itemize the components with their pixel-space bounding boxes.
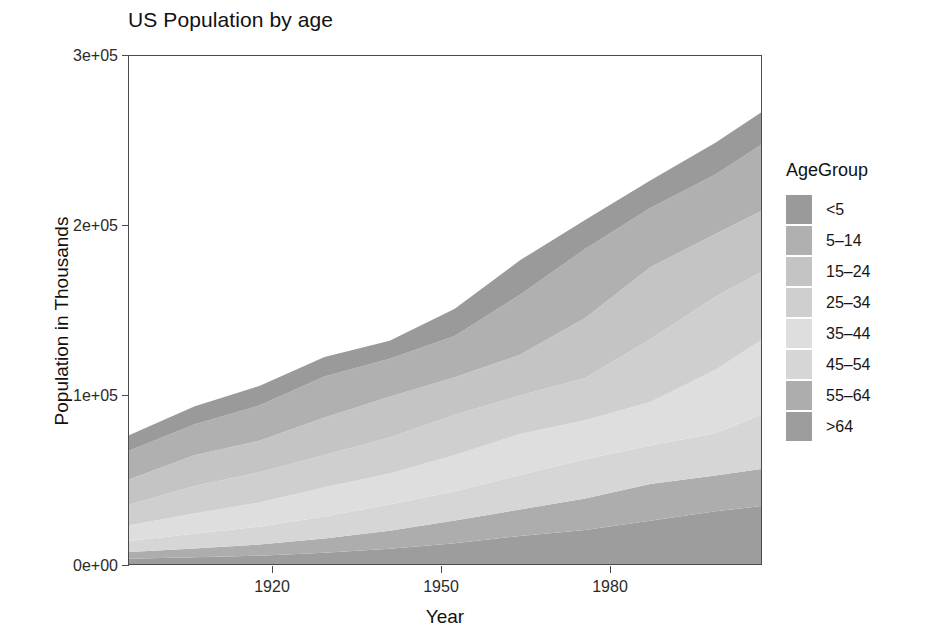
- legend-item[interactable]: 45–54: [786, 349, 926, 380]
- y-tick-label-1: 1e+05: [52, 387, 118, 405]
- legend-item-label: 25–34: [826, 294, 871, 312]
- legend-swatch-icon: [786, 412, 812, 441]
- legend-swatch-icon: [786, 195, 812, 224]
- legend-item[interactable]: 25–34: [786, 287, 926, 318]
- legend-item-label: 15–24: [826, 263, 871, 281]
- y-axis-title: Population in Thousands: [51, 141, 73, 501]
- x-axis-title: Year: [128, 606, 762, 628]
- stacked-area-svg: [129, 56, 761, 564]
- y-tick-mark-0: [122, 565, 129, 566]
- legend-item-label: 55–64: [826, 387, 871, 405]
- x-tick-label-0: 1920: [232, 578, 312, 596]
- legend-item-label: >64: [826, 418, 853, 436]
- chart-figure: US Population by age Population in Thous…: [0, 0, 928, 642]
- legend-swatch-icon: [786, 319, 812, 348]
- legend-items: <55–1415–2425–3435–4445–5455–64>64: [786, 194, 926, 442]
- legend-item[interactable]: >64: [786, 411, 926, 442]
- x-tick-mark-1: [441, 566, 442, 573]
- legend-item-label: 35–44: [826, 325, 871, 343]
- area-series-group: [129, 113, 761, 564]
- x-tick-label-2: 1980: [570, 578, 650, 596]
- legend-swatch-icon: [786, 226, 812, 255]
- x-tick-mark-2: [610, 566, 611, 573]
- legend-item[interactable]: 5–14: [786, 225, 926, 256]
- legend-item[interactable]: <5: [786, 194, 926, 225]
- legend-item-label: 5–14: [826, 232, 862, 250]
- legend-item[interactable]: 35–44: [786, 318, 926, 349]
- legend-swatch-icon: [786, 350, 812, 379]
- legend: AgeGroup <55–1415–2425–3435–4445–5455–64…: [786, 160, 926, 442]
- plot-area: [128, 55, 762, 565]
- legend-swatch-icon: [786, 381, 812, 410]
- y-tick-label-3: 3e+05: [52, 47, 118, 65]
- legend-item[interactable]: 55–64: [786, 380, 926, 411]
- y-tick-label-0: 0e+00: [52, 557, 118, 575]
- legend-item[interactable]: 15–24: [786, 256, 926, 287]
- page-title: US Population by age: [128, 8, 333, 32]
- x-tick-mark-0: [272, 566, 273, 573]
- legend-item-label: 45–54: [826, 356, 871, 374]
- legend-title: AgeGroup: [786, 160, 926, 181]
- legend-swatch-icon: [786, 257, 812, 286]
- legend-item-label: <5: [826, 201, 844, 219]
- y-tick-label-2: 2e+05: [52, 217, 118, 235]
- legend-swatch-icon: [786, 288, 812, 317]
- x-tick-label-1: 1950: [401, 578, 481, 596]
